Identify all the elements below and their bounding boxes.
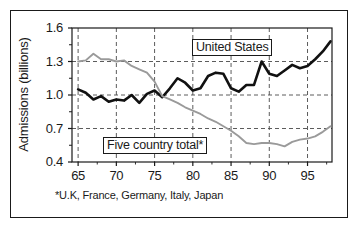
y-tick-label: 0.7	[33, 121, 63, 136]
y-tick-label: 1.3	[33, 54, 63, 69]
chart-footnote: *U.K, France, Germany, Italy, Japan	[55, 189, 223, 201]
chart-figure: Admissions (billions) United States Five…	[0, 0, 358, 228]
x-tick-label: 70	[101, 168, 131, 183]
x-tick-label: 65	[63, 168, 93, 183]
x-tick-label: 95	[293, 168, 323, 183]
x-tick-label: 90	[254, 168, 284, 183]
y-tick-label: 0.4	[33, 154, 63, 169]
x-tick-label: 75	[140, 168, 170, 183]
y-tick-label: 1.0	[33, 87, 63, 102]
series-label-five-country-total: Five country total*	[103, 137, 207, 154]
x-tick-label: 85	[216, 168, 246, 183]
x-tick-label: 80	[178, 168, 208, 183]
series-label-united-states: United States	[192, 39, 272, 56]
y-tick-label: 1.6	[33, 20, 63, 35]
